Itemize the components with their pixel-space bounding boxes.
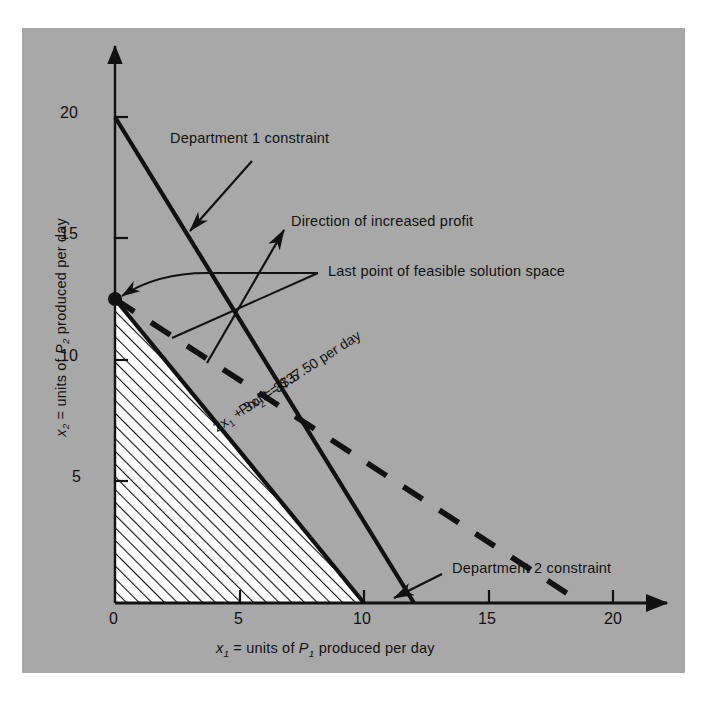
optimal-point-marker	[108, 292, 122, 306]
dept1-leader-line	[190, 161, 252, 231]
x-axis-product: P	[299, 640, 309, 656]
direction-arrow	[207, 230, 284, 363]
y-axis-var-sub: 2	[60, 424, 71, 430]
dept1-constraint-label: Department 1 constraint	[170, 130, 329, 146]
figure-panel: 20 15 10 5 0 5 10 15 20 x1 = units of P1…	[22, 28, 685, 673]
x-axis-mid: = units of	[229, 640, 299, 656]
x-tick-label-5: 5	[234, 610, 243, 628]
x-tick-label-0: 0	[109, 610, 118, 628]
y-axis-var: x	[53, 429, 69, 436]
x-axis-tail: produced per day	[314, 640, 434, 656]
direction-label: Direction of increased profit	[291, 213, 473, 229]
x-tick-label-10: 10	[353, 610, 371, 628]
y-tick-label-20: 20	[60, 104, 78, 122]
x-tick-label-20: 20	[604, 610, 622, 628]
graph-canvas	[22, 28, 685, 673]
x-axis-title: x1 = units of P1 produced per day	[216, 640, 435, 659]
y-axis-mid: = units of	[53, 354, 69, 424]
y-axis-title: x2 = units of P2 produced per day	[53, 197, 72, 457]
dept2-constraint-label: Department 2 constraint	[452, 560, 611, 576]
x-tick-label-15: 15	[478, 610, 496, 628]
y-axis-tail: produced per day	[53, 218, 69, 338]
last-point-label: Last point of feasible solution space	[328, 263, 565, 279]
y-axis-product: P	[53, 344, 69, 354]
y-axis-product-sub: 2	[60, 338, 71, 344]
y-tick-label-5: 5	[72, 468, 81, 486]
